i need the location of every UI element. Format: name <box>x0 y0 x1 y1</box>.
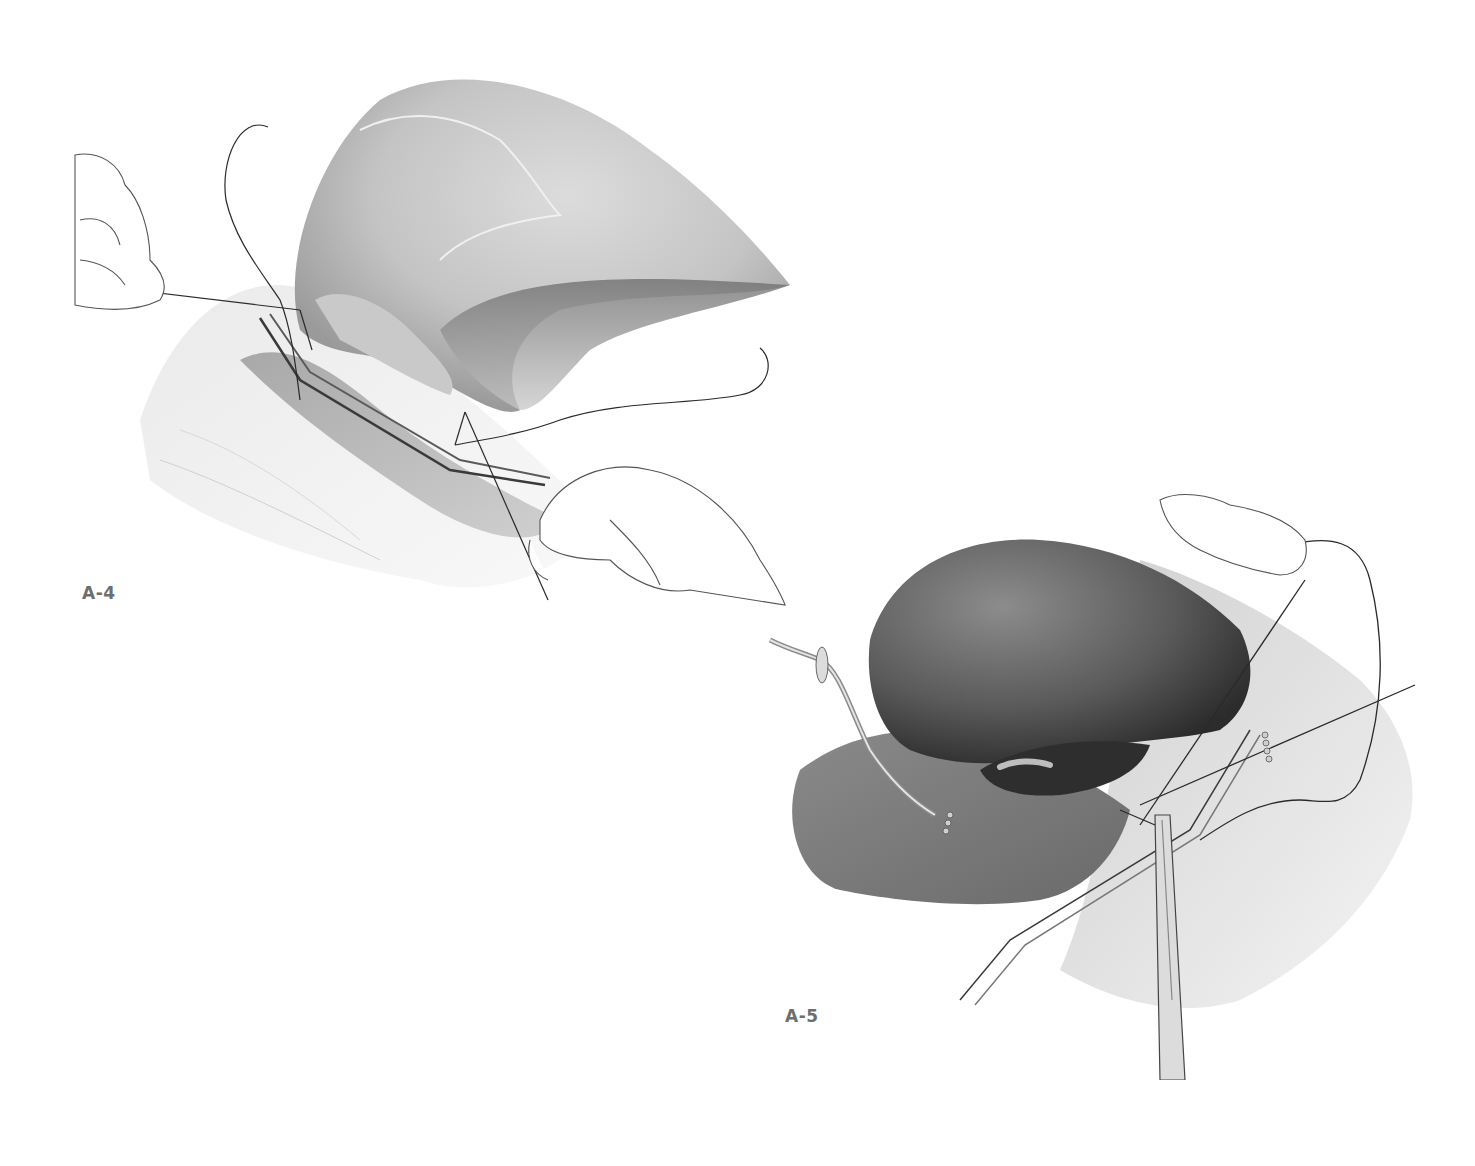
gloved-hand-icon <box>529 467 785 605</box>
gloved-hand-icon <box>1160 495 1306 575</box>
panel-label-a4: A-4 <box>82 583 116 603</box>
figure-panel-a5: A-5 <box>760 480 1475 1080</box>
panel-label-a5: A-5 <box>785 1006 819 1026</box>
figure-panel-a4: A-4 <box>0 0 820 620</box>
liver-illustration <box>0 0 820 620</box>
liver-illustration <box>760 480 1475 1080</box>
gloved-hand-icon <box>75 154 164 309</box>
